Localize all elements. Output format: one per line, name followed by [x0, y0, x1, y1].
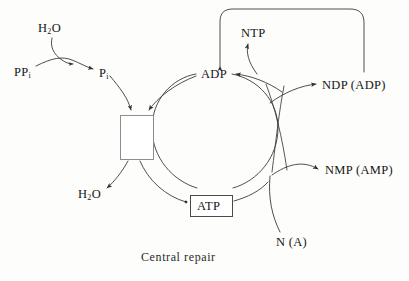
label-h2o-bottom: H2O [78, 188, 101, 201]
edge-na-to-cycle [269, 176, 280, 232]
atp-box-label: ATP [197, 199, 220, 214]
label-nmp-amp: NMP (AMP) [325, 164, 393, 177]
cycle-arc-right [232, 74, 278, 188]
edge-atp-to-cycle [234, 182, 268, 201]
ppi-subscript: i [29, 71, 32, 80]
label-n-a: N (A) [276, 236, 307, 249]
label-h2o-top: H2O [38, 22, 61, 35]
edge-ppi-to-pi [36, 58, 93, 69]
label-adp: ADP [201, 68, 227, 81]
edge-cycle-to-repairbox [149, 76, 196, 110]
edge-repairbox-to-atp [140, 161, 186, 202]
label-pi: Pi [99, 67, 109, 80]
edge-cycle-to-nmp [272, 164, 318, 175]
edge-cycle-to-ntp [247, 44, 257, 74]
edge-pi-to-repairbox [110, 76, 131, 110]
edge-repairbox-to-h2o [107, 161, 128, 188]
label-ppi: PPi [14, 66, 31, 79]
diagram-canvas: ATP H2O PPi Pi H2O ADP NTP NDP (ADP) NMP… [0, 0, 409, 281]
edge-cycle-to-ndp [270, 84, 316, 103]
label-ntp: NTP [241, 27, 266, 40]
edge-toploop-to-adp [220, 9, 364, 72]
cycle-arc-left [152, 74, 197, 188]
label-ndp-adp: NDP (ADP) [322, 79, 386, 92]
edge-cross-upper-to-nmp [266, 84, 287, 170]
h2o-bottom-subscript: 2 [87, 193, 91, 202]
edge-h2o-into-reaction [51, 38, 73, 64]
pi-subscript: i [106, 72, 109, 81]
diagram-caption: Central repair [141, 251, 216, 263]
diagram-svg [0, 0, 409, 281]
h2o-top-subscript: 2 [47, 27, 51, 36]
dna-repair-box[interactable] [120, 115, 154, 160]
